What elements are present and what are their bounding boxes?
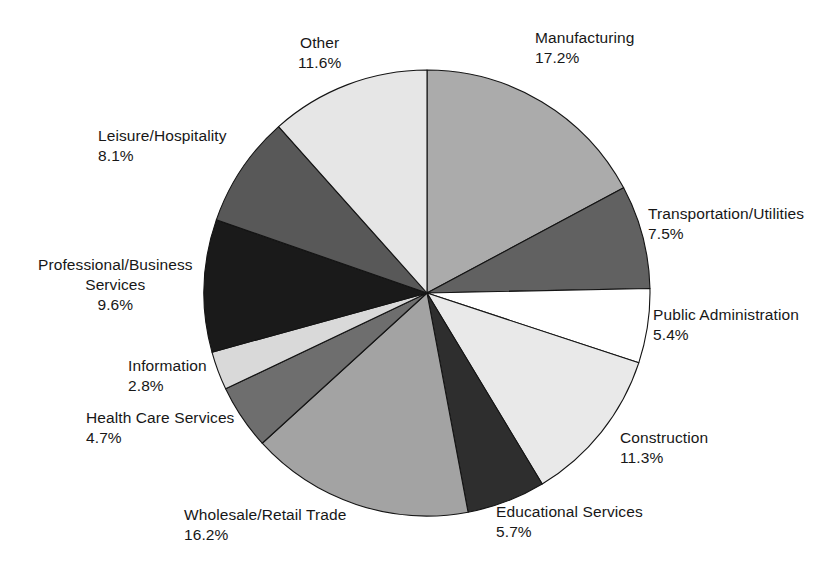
pie-slice-label-value: 2.8% <box>128 376 207 396</box>
pie-slice-label: Information2.8% <box>128 356 207 396</box>
pie-slice-label-name: Manufacturing <box>535 28 635 48</box>
pie-slice-label: Health Care Services4.7% <box>86 408 234 448</box>
pie-slice-label: Leisure/Hospitality8.1% <box>98 126 227 166</box>
pie-slice-label: Professional/BusinessServices9.6% <box>38 255 193 315</box>
pie-slice-label: Wholesale/Retail Trade16.2% <box>184 505 346 545</box>
pie-slice-label-value: 16.2% <box>184 525 346 545</box>
pie-slice-label: Transportation/Utilities7.5% <box>648 204 804 244</box>
pie-slice-label-name-line2: Services <box>38 275 193 295</box>
pie-slice-label-value: 11.6% <box>298 53 341 73</box>
pie-slice-label: Other11.6% <box>298 33 341 73</box>
pie-slice-label-value: 17.2% <box>535 48 635 68</box>
pie-slice-label-value: 11.3% <box>620 448 708 468</box>
pie-slice-label-name: Construction <box>620 428 708 448</box>
pie-slice-label-value: 4.7% <box>86 428 234 448</box>
pie-slice-label-name: Leisure/Hospitality <box>98 126 227 146</box>
pie-slice-label: Manufacturing17.2% <box>535 28 635 68</box>
pie-slice-label: Construction11.3% <box>620 428 708 468</box>
pie-slice-label: Public Administration5.4% <box>653 305 799 345</box>
pie-slice-label-name: Transportation/Utilities <box>648 204 804 224</box>
pie-slice-label-value: 9.6% <box>38 295 193 315</box>
pie-slice-label-name: Information <box>128 356 207 376</box>
pie-slice-label-value: 7.5% <box>648 224 804 244</box>
pie-slice-label-name: Professional/Business <box>38 255 193 275</box>
pie-slice-label-name: Health Care Services <box>86 408 234 428</box>
pie-slice-label-name: Other <box>298 33 341 53</box>
pie-slice-label: Educational Services5.7% <box>496 502 643 542</box>
pie-slice-label-value: 5.4% <box>653 325 799 345</box>
pie-slice-label-value: 5.7% <box>496 522 643 542</box>
pie-slice-label-value: 8.1% <box>98 146 227 166</box>
pie-slice-label-name: Public Administration <box>653 305 799 325</box>
pie-slice-label-name: Educational Services <box>496 502 643 522</box>
pie-chart-figure: Manufacturing17.2%Transportation/Utiliti… <box>0 0 840 574</box>
pie-slice-label-name: Wholesale/Retail Trade <box>184 505 346 525</box>
pie-slices-group <box>204 70 650 516</box>
